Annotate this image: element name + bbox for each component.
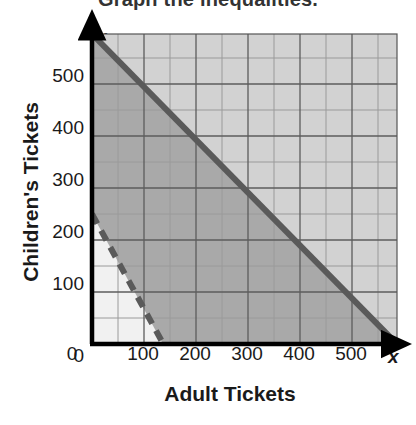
plot-area [0, 0, 416, 425]
inequalities-graph-figure: Graph the inequalities. Children's Ticke… [0, 0, 416, 425]
